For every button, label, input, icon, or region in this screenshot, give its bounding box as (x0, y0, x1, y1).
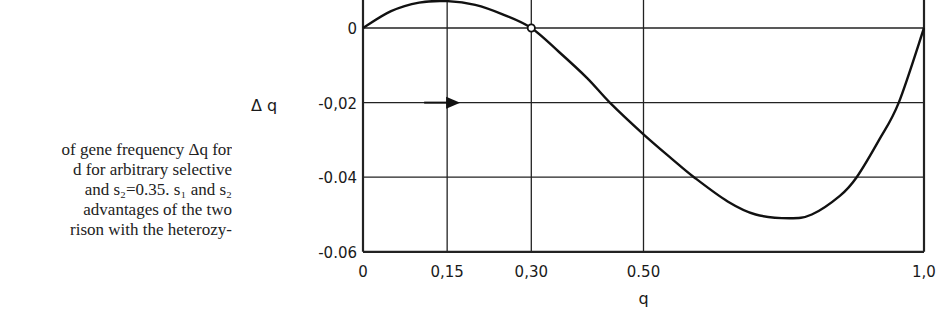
y-axis-label: Δ q (251, 96, 277, 115)
equilibrium-point-marker (528, 24, 535, 31)
x-tick-label: 1,0 (912, 263, 936, 281)
x-tick-label: 0,30 (515, 263, 548, 281)
y-tick-label: -0,02 (318, 95, 357, 113)
y-tick-label: -0.04 (318, 169, 357, 187)
delta-q-chart: 00,150,300.501,00-0,02-0.04-0.06 q Δ q (0, 0, 944, 315)
arrow-head-icon (446, 97, 460, 109)
x-tick-label: 0.50 (627, 263, 660, 281)
x-tick-label: 0,15 (430, 263, 463, 281)
tick-labels: 00,150,300.501,00-0,02-0.04-0.06 (318, 20, 936, 281)
x-tick-label: 0 (358, 263, 368, 281)
y-tick-label: -0.06 (318, 244, 357, 262)
x-axis-label: q (638, 289, 648, 308)
grid-lines (363, 0, 924, 252)
y-tick-label: 0 (347, 20, 357, 38)
annotations (424, 24, 535, 108)
